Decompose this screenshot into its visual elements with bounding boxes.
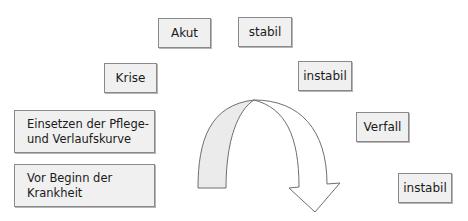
phase-krise: Krise xyxy=(104,63,157,93)
phase-instabil-2: instabil xyxy=(398,173,452,203)
phase-label-line: Vor Beginn der xyxy=(27,171,112,186)
phase-label-line: Krankheit xyxy=(27,186,112,201)
phase-vor-beginn: Vor Beginn der Krankheit xyxy=(14,164,155,207)
phase-einsetzen: Einsetzen der Pflege- und Verlaufskurve xyxy=(14,110,155,153)
phase-label: Krise xyxy=(116,71,146,86)
phase-instabil-1: instabil xyxy=(298,61,352,91)
phase-label-line: Einsetzen der Pflege- xyxy=(27,117,149,132)
phase-label: instabil xyxy=(303,69,347,84)
phase-label-line: und Verlaufskurve xyxy=(27,132,149,147)
phase-label: instabil xyxy=(403,181,447,196)
phase-label: Verfall xyxy=(364,120,402,135)
phase-label: Akut xyxy=(171,26,198,41)
phase-akut: Akut xyxy=(158,18,211,48)
phase-label: stabil xyxy=(249,25,282,40)
phase-verfall: Verfall xyxy=(356,112,409,142)
phase-stabil: stabil xyxy=(238,17,292,47)
